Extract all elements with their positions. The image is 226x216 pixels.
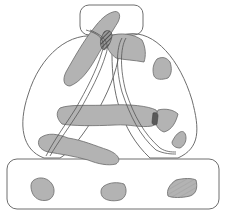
- blob-right-middle: [155, 109, 178, 132]
- blob-bottom-right: [167, 179, 196, 198]
- blob-middle-band: [57, 105, 158, 127]
- diagram-canvas: [0, 0, 226, 216]
- blob-bottom-left: [31, 178, 54, 201]
- hatched-overlap-right: [152, 113, 158, 125]
- diagram-svg: [0, 0, 226, 216]
- blob-right-small: [153, 58, 171, 80]
- blob-right-lower-small: [172, 131, 186, 148]
- blob-lower-left-diagonal: [38, 134, 118, 165]
- blob-bottom-center: [101, 183, 126, 201]
